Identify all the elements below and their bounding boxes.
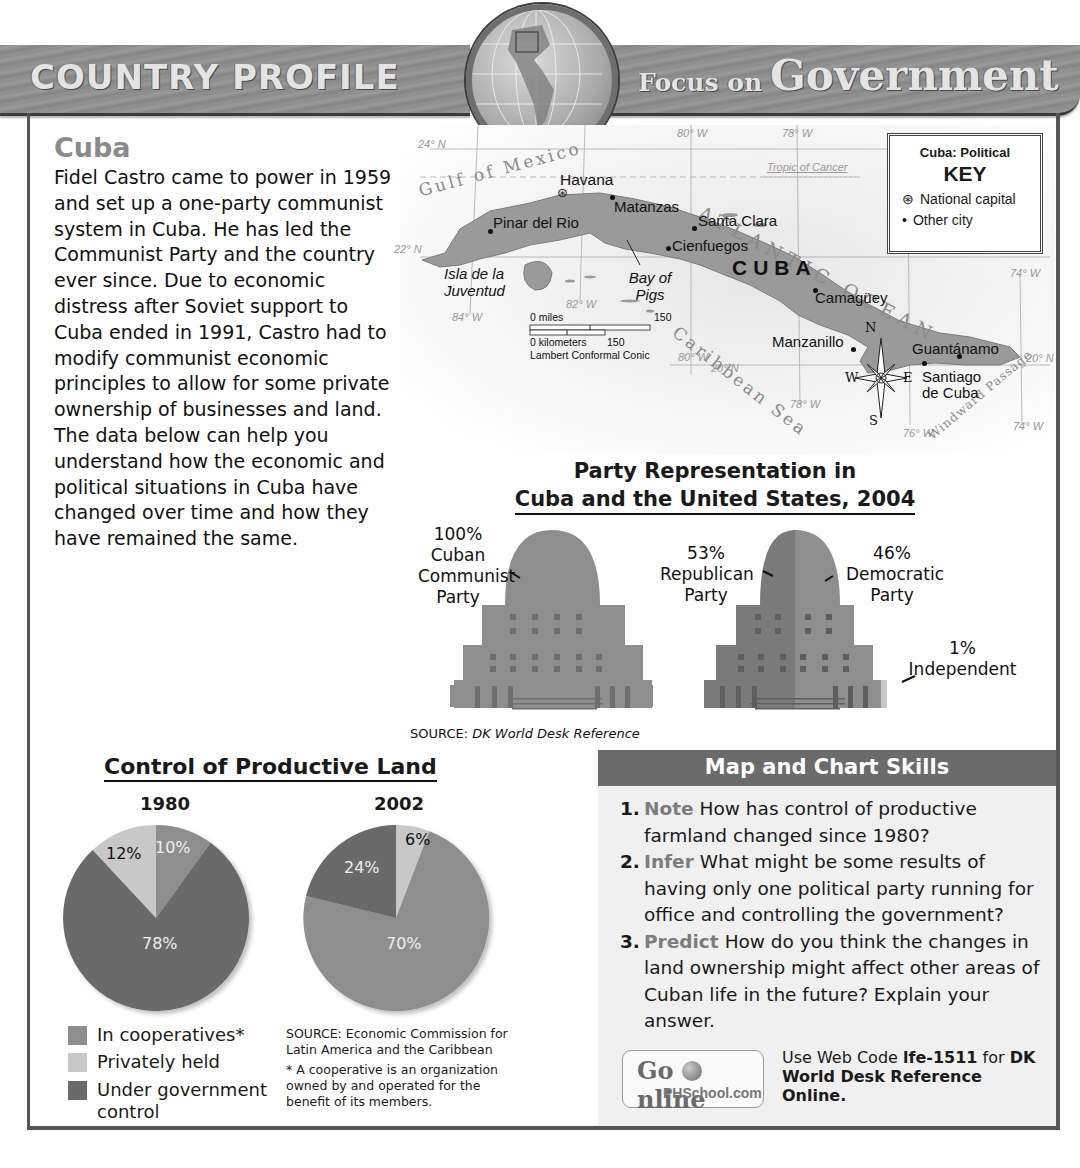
key-label: Other city — [913, 212, 973, 228]
skill-text: What might be some results of having onl… — [644, 851, 1034, 925]
key-heading: KEY — [890, 162, 1040, 186]
key-item-city: • Other city — [902, 212, 1040, 228]
compass-s: S — [869, 413, 878, 428]
city-cienfuegos: Cienfuegos — [672, 237, 748, 254]
legend-cooperatives: In cooperatives* — [68, 1024, 244, 1046]
national-capital-icon: ⊛ — [902, 191, 914, 207]
skill-keyword: Note — [644, 798, 694, 819]
legend-government: Under government control — [68, 1079, 268, 1123]
independent-label: 1% Independent — [905, 638, 1020, 680]
city-havana: Havana — [560, 171, 613, 189]
republican-pct: 53% — [656, 543, 756, 564]
coord-74w-bottom: 74° W — [1013, 420, 1043, 432]
frame-right-border — [1056, 113, 1060, 1128]
webcode-prefix: Use Web Code — [782, 1048, 903, 1067]
coord-24n-left: 24° N — [418, 138, 446, 150]
projection-label: Lambert Conformal Conic — [530, 349, 650, 361]
legend-label: In cooperatives* — [97, 1024, 244, 1046]
banner-focus-title: Government — [770, 51, 1059, 100]
webcode-value: lfe-1511 — [903, 1048, 977, 1067]
pie-2002 — [298, 820, 498, 1020]
source-prefix: SOURCE: — [410, 726, 468, 741]
skill-item: 1. NoteHow has control of productive far… — [620, 796, 1056, 849]
skills-header: Map and Chart Skills — [598, 750, 1056, 786]
democratic-party-label: 46% Democratic Party — [842, 543, 942, 606]
party-chart-title: Party Representation in Cuba and the Uni… — [500, 457, 930, 513]
pie2002-private-label: 6% — [405, 830, 430, 849]
compass-w: W — [845, 370, 858, 385]
webcode-mid: for — [977, 1048, 1009, 1067]
pie1980-coop-label: 10% — [155, 838, 191, 857]
scale-miles-label: 0 miles — [530, 311, 563, 323]
city-pinar-del-rio: Pinar del Rio — [493, 214, 579, 231]
skill-item: 2. InferWhat might be some results of ha… — [620, 849, 1056, 929]
democratic-pct: 46% — [842, 543, 942, 564]
city-santiago-de-cuba: Santiago de Cuba — [922, 369, 1002, 401]
map-key: Cuba: Political KEY ⊛ National capital •… — [887, 133, 1043, 254]
independent-name: Independent — [905, 659, 1020, 680]
globe-icon — [682, 1061, 702, 1081]
coord-78w-top: 78° W — [782, 127, 812, 139]
country-heading: Cuba — [54, 132, 131, 163]
legend-swatch-government — [68, 1081, 87, 1100]
city-camaguey: Camagüey — [815, 289, 888, 306]
coord-74w-top: 74° W — [1010, 267, 1040, 279]
legend-label: Privately held — [97, 1051, 220, 1073]
source-name: DK World Desk Reference — [472, 726, 640, 741]
cuba-party-pct: 100% — [408, 524, 508, 545]
frame-bottom-border — [27, 1126, 1060, 1130]
coord-82w: 82° W — [566, 298, 596, 310]
banner-focus: Focus on Government — [590, 45, 1080, 116]
banner-title-left: COUNTRY PROFILE — [30, 57, 400, 97]
legend-swatch-private — [68, 1053, 87, 1072]
skills-list: 1. NoteHow has control of productive far… — [620, 796, 1056, 1035]
coord-78w-bottom: 78° W — [790, 398, 820, 410]
pie-year-1980: 1980 — [140, 793, 190, 814]
legend-swatch-cooperatives — [68, 1026, 87, 1045]
banner-focus-prefix: Focus on — [638, 68, 762, 97]
republican-name: Republican Party — [660, 564, 752, 606]
city-manzanillo: Manzanillo — [772, 333, 844, 350]
coord-22n: 22° N — [394, 243, 422, 255]
banner-country-profile: COUNTRY PROFILE — [0, 45, 470, 116]
skill-number: 2. — [620, 849, 644, 929]
city-guantanamo: Guantánamo — [912, 340, 999, 357]
coord-80w-top: 80° W — [677, 127, 707, 139]
skill-keyword: Predict — [644, 931, 719, 952]
bay-of-pigs-label: Bay of Pigs — [622, 269, 678, 303]
key-title: Cuba: Political — [890, 145, 1040, 160]
independent-pct: 1% — [905, 638, 1020, 659]
skill-number: 3. — [620, 929, 644, 1035]
pie2002-gov-label: 24% — [344, 858, 380, 877]
phschool-link[interactable]: PHSchool.com — [663, 1085, 762, 1101]
compass-e: E — [903, 370, 913, 385]
cuba-party-label: 100% Cuban Communist Party — [408, 524, 508, 608]
pie-year-2002: 2002 — [374, 793, 424, 814]
country-label-cuba: CUBA — [732, 256, 817, 280]
party-title-line1: Party Representation in — [500, 457, 930, 485]
pie1980-private-label: 12% — [106, 844, 142, 863]
compass-n: N — [865, 320, 876, 335]
pie2002-coop-label: 70% — [386, 934, 422, 953]
city-santa-clara: Santa Clara — [698, 212, 777, 229]
go-online-logo[interactable]: Go nline PHSchool.com — [622, 1050, 764, 1108]
cooperative-footnote: * A cooperative is an organization owned… — [286, 1062, 526, 1110]
frame-left-border — [27, 113, 30, 1128]
isla-de-la-juventud-label: Isla de la Juventud — [444, 265, 524, 299]
cuba-party-name: Cuban Communist Party — [418, 545, 498, 608]
city-dot-icon — [922, 361, 927, 366]
land-chart-title: Control of Productive Land — [104, 754, 437, 782]
legend-label: Under government control — [97, 1079, 268, 1123]
party-source: SOURCE: DK World Desk Reference — [410, 726, 640, 741]
webcode-text: Use Web Code lfe-1511 for DK World Desk … — [782, 1048, 1042, 1105]
land-source: SOURCE: Economic Commission for Latin Am… — [286, 1026, 526, 1058]
party-title-line2: Cuba and the United States, 2004 — [515, 487, 916, 515]
scale-miles-value: 150 — [654, 311, 672, 323]
key-label: National capital — [920, 191, 1016, 207]
city-dot-icon: • — [902, 212, 907, 228]
pie1980-gov-label: 78% — [142, 934, 178, 953]
skill-keyword: Infer — [644, 851, 694, 872]
legend-private: Privately held — [68, 1051, 220, 1073]
city-dot-icon — [666, 246, 671, 251]
democratic-name: Democratic Party — [846, 564, 938, 606]
